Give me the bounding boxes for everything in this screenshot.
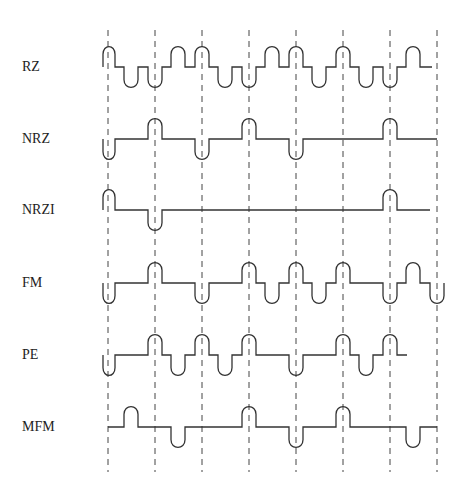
label-mfm: MFM [22, 420, 55, 434]
waveform-nrz [103, 119, 437, 160]
waveform-mfm [108, 407, 437, 448]
waveforms [103, 47, 444, 448]
label-pe: PE [22, 348, 38, 362]
label-fm: FM [22, 276, 42, 290]
waveform-fm [103, 263, 444, 304]
label-rz: RZ [22, 60, 40, 74]
waveform-rz [103, 47, 432, 88]
waveform-nrzi [103, 190, 430, 231]
clock-reference-lines [108, 30, 437, 472]
label-nrzi: NRZI [22, 203, 55, 217]
waveform-pe [103, 335, 407, 376]
label-nrz: NRZ [22, 132, 50, 146]
encoding-waveform-diagram [0, 0, 463, 492]
